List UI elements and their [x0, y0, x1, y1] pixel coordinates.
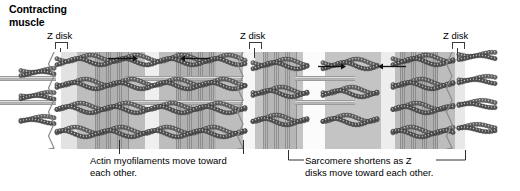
actin-stub-right: [458, 49, 496, 63]
actin-right-upper: [252, 113, 308, 127]
z-disk-label-middle-pointer: [249, 42, 262, 49]
actin-left-lower: [148, 101, 246, 115]
z-disk-label-right: Z disk: [443, 30, 468, 41]
actin-left-lower: [148, 125, 246, 139]
myofibril-diagram: [0, 52, 520, 149]
actin-stub-right: [458, 97, 496, 111]
z-disk-label-left: Z disk: [47, 30, 72, 41]
actin-stub-right: [458, 121, 496, 135]
myosin-rod-5: [295, 76, 355, 81]
caption-actin: Actin myofilaments move toward each othe…: [90, 155, 227, 178]
z-disk-label-middle-stem: [254, 48, 255, 58]
actin-left-upper: [56, 125, 148, 139]
actin-right-upper: [252, 85, 308, 99]
actin-stub-right: [458, 73, 496, 87]
z-disk-label-middle: Z disk: [240, 30, 265, 41]
z-disk-label-right-pointer: [452, 42, 465, 49]
z-disk-label-left-pointer: [55, 42, 68, 49]
myosin-rod-6: [295, 100, 355, 105]
leader-line-actin-right: [243, 140, 244, 154]
arrow-left-sarcomere-1: [180, 54, 210, 63]
actin-right-upper: [252, 57, 308, 71]
actin-left-upper: [56, 77, 148, 91]
actin-left-lower: [148, 77, 246, 91]
z-line-middle: [236, 52, 250, 149]
actin-right-lower: [322, 113, 378, 127]
page-title: Contracting muscle: [9, 3, 129, 28]
z-disk-label-left-stem: [60, 48, 61, 52]
actin-right-lower: [322, 85, 378, 99]
actin-left-upper: [56, 101, 148, 115]
leader-line-actin-left: [119, 140, 120, 154]
arrow-right-sarcomere-2: [318, 62, 346, 71]
arrow-left-sarcomere-2: [378, 62, 406, 71]
z-line-right: [445, 52, 459, 149]
caption-sarcomere: Sarcomere shortens as Z disks move towar…: [305, 155, 433, 178]
z-disk-label-right-stem: [457, 48, 458, 58]
arrow-right-sarcomere-1: [108, 54, 138, 63]
z-line-left: [47, 52, 61, 149]
